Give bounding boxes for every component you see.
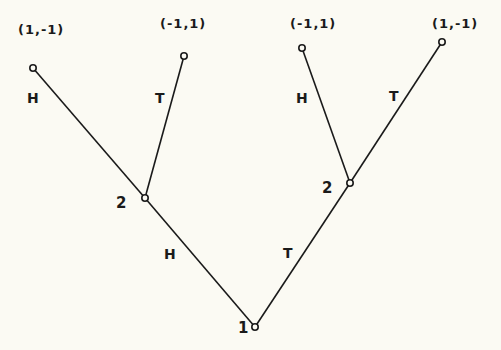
edges <box>33 42 442 327</box>
edge-root-left <box>145 198 255 327</box>
payoff-hh: (1,-1) <box>18 22 64 37</box>
right-decision-node <box>347 180 353 186</box>
edge-label-right-to-th: H <box>296 90 308 106</box>
edge-root-right <box>255 183 350 327</box>
nodes <box>30 39 445 330</box>
root-player-label: 1 <box>238 319 248 337</box>
edge-left-to-hh <box>33 68 145 198</box>
edge-label-left-to-hh: H <box>27 90 39 106</box>
edge-labels: H T H T H T <box>27 88 399 262</box>
payoff-ht: (-1,1) <box>160 16 206 31</box>
game-tree-diagram: 1 2 2 H T H T H T (1,-1) (-1,1) (-1,1) (… <box>0 0 501 350</box>
edge-label-left-to-ht: T <box>155 90 165 106</box>
root-node <box>252 324 258 330</box>
edge-right-to-tt <box>350 42 442 183</box>
edge-label-right-to-tt: T <box>389 88 399 104</box>
edge-label-root-left: H <box>164 246 176 262</box>
leaf-node-ht <box>181 53 187 59</box>
leaf-node-th <box>299 45 305 51</box>
left-player-label: 2 <box>116 194 126 212</box>
leaf-node-hh <box>30 65 36 71</box>
payoff-labels: (1,-1) (-1,1) (-1,1) (1,-1) <box>18 16 478 37</box>
left-decision-node <box>142 195 148 201</box>
right-player-label: 2 <box>322 179 332 197</box>
payoff-th: (-1,1) <box>290 16 336 31</box>
edge-left-to-ht <box>145 56 184 198</box>
edge-right-to-th <box>302 48 350 183</box>
edge-label-root-right: T <box>283 245 293 261</box>
leaf-node-tt <box>439 39 445 45</box>
payoff-tt: (1,-1) <box>432 16 478 31</box>
